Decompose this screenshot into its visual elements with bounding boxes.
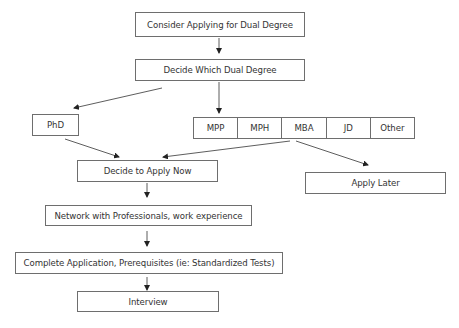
node-label: Decide to Apply Now — [104, 166, 192, 176]
node-apply-later: Apply Later — [305, 172, 446, 194]
node-label: Decide Which Dual Degree — [163, 65, 276, 75]
degree-mph: MPH — [238, 118, 282, 138]
node-decide-which: Decide Which Dual Degree — [135, 59, 305, 81]
node-label: Other — [380, 123, 404, 133]
arrow-phd-to-applynow — [65, 139, 119, 157]
arrow-degrees-to-applynow — [163, 141, 290, 157]
node-phd: PhD — [32, 114, 79, 136]
node-label: Interview — [128, 297, 167, 307]
node-label: MBA — [294, 123, 313, 133]
node-label: MPH — [250, 123, 269, 133]
node-label: PhD — [47, 120, 64, 130]
node-label: Apply Later — [351, 178, 399, 188]
degree-other: Other — [371, 118, 414, 138]
node-complete-application: Complete Application, Prerequisites (ie:… — [15, 252, 283, 274]
node-label: MPP — [207, 123, 225, 133]
node-apply-now: Decide to Apply Now — [77, 160, 218, 182]
node-label: Consider Applying for Dual Degree — [147, 20, 293, 30]
node-interview: Interview — [77, 291, 219, 312]
arrow-degrees-to-applylater — [296, 141, 368, 165]
node-label: Complete Application, Prerequisites (ie:… — [24, 258, 275, 268]
node-label: JD — [344, 123, 353, 133]
node-degree-options: MPP MPH MBA JD Other — [193, 117, 415, 139]
node-network: Network with Professionals, work experie… — [45, 205, 252, 226]
node-consider-applying: Consider Applying for Dual Degree — [135, 12, 305, 37]
degree-jd: JD — [327, 118, 371, 138]
node-label: Network with Professionals, work experie… — [54, 211, 242, 221]
degree-mba: MBA — [282, 118, 326, 138]
arrow-decide-to-phd — [74, 88, 162, 108]
flow-arrows — [0, 0, 459, 328]
degree-mpp: MPP — [194, 118, 238, 138]
